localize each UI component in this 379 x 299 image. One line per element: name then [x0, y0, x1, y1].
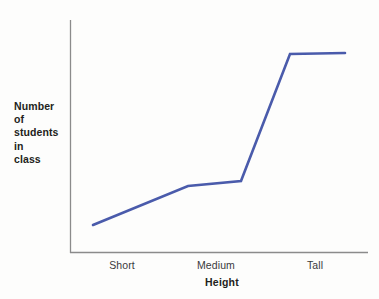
x-tick-label-tall: Tall	[285, 259, 345, 271]
data-line-students	[93, 53, 345, 225]
y-axis-label-line-5: class	[14, 153, 68, 166]
y-axis-label-line-2: of	[14, 113, 68, 126]
y-axis-label-line-3: students	[14, 126, 68, 139]
x-tick-label-medium: Medium	[185, 259, 247, 271]
y-axis-label: Number of students in class	[14, 100, 68, 166]
y-axis-label-line-1: Number	[14, 100, 68, 113]
line-chart: Number of students in class Short Medium…	[0, 0, 379, 299]
x-tick-label-short: Short	[92, 259, 152, 271]
y-axis-label-line-4: in	[14, 140, 68, 153]
x-axis-title: Height	[182, 276, 262, 288]
